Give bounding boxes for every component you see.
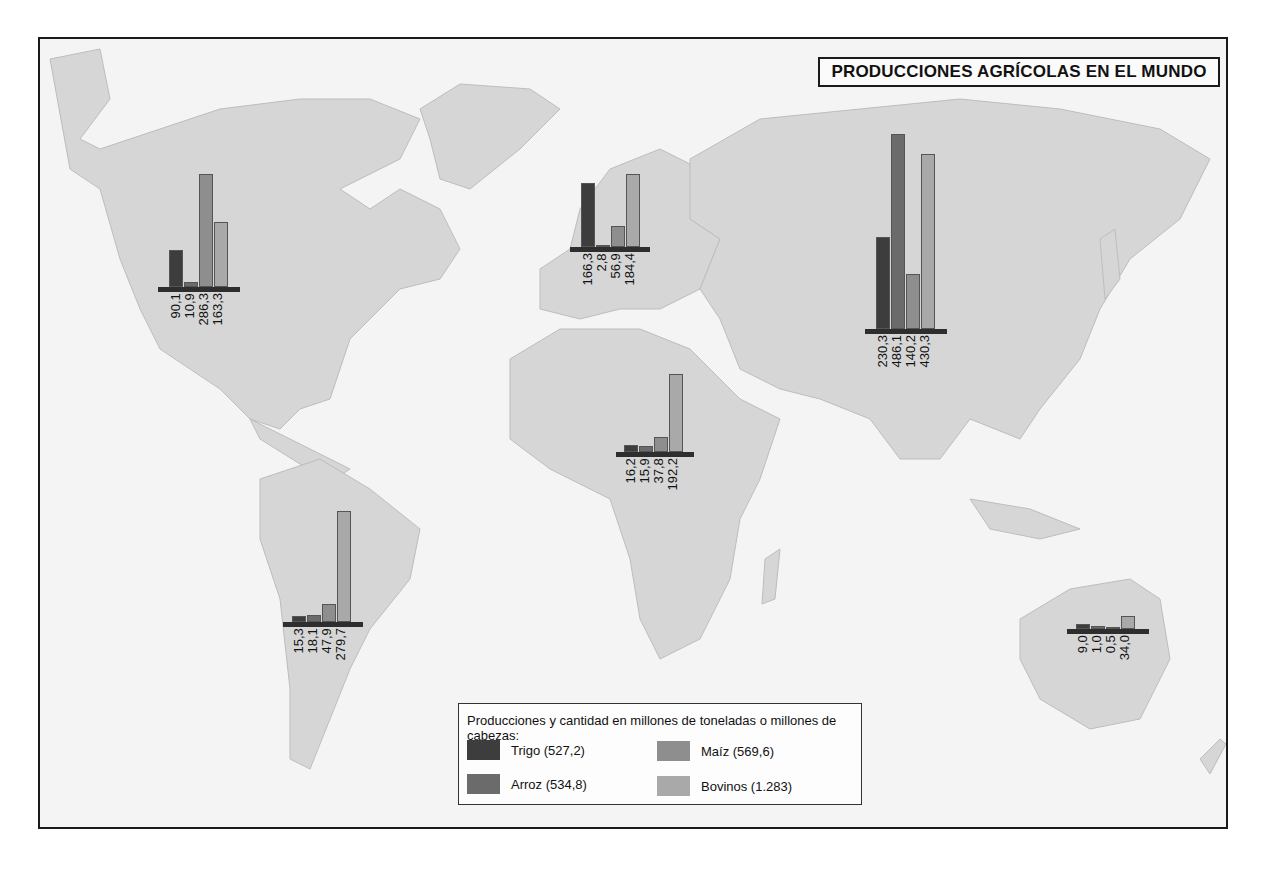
value-label-bovinos: 192,2 [666, 458, 680, 491]
bar-maiz [322, 604, 336, 622]
madagascar-landmass [762, 549, 780, 604]
north-america-landmass [50, 49, 460, 429]
value-label-trigo: 166,3 [581, 253, 595, 286]
legend-heading: Producciones y cantidad en millones de t… [467, 713, 861, 743]
value-label-maiz: 286,3 [197, 293, 211, 326]
legend-item-maiz: Maíz (569,6) [657, 741, 774, 761]
value-labels: 90,1 10,9 286,3 163,3 [169, 293, 225, 326]
chart-baseline [865, 329, 947, 334]
bar-arroz [307, 615, 321, 622]
value-label-bovinos: 430,3 [918, 335, 932, 368]
legend-label: Arroz (534,8) [511, 777, 587, 792]
value-label-trigo: 16,2 [624, 458, 638, 491]
bar-arroz [184, 282, 198, 287]
value-labels: 230,3 486,1 140,2 430,3 [876, 335, 932, 368]
swatch-arroz [467, 774, 500, 794]
chart-baseline [1067, 629, 1149, 634]
value-label-arroz: 15,9 [638, 458, 652, 491]
chart-baseline [158, 287, 240, 292]
legend: Producciones y cantidad en millones de t… [458, 703, 862, 805]
bar-trigo [581, 183, 595, 247]
value-label-trigo: 9,0 [1076, 635, 1090, 660]
asia-landmass [690, 99, 1210, 459]
value-label-maiz: 140,2 [904, 335, 918, 368]
bar-bovinos [669, 374, 683, 452]
legend-item-bovinos: Bovinos (1.283) [657, 776, 792, 796]
bar-maiz [906, 274, 920, 329]
swatch-trigo [467, 740, 500, 760]
map-title: PRODUCCIONES AGRÍCOLAS EN EL MUNDO [818, 57, 1220, 87]
new-zealand-landmass [1200, 739, 1226, 774]
legend-label: Bovinos (1.283) [701, 779, 792, 794]
bar-trigo [624, 445, 638, 452]
africa-landmass [510, 329, 780, 659]
map-frame: PRODUCCIONES AGRÍCOLAS EN EL MUNDO 90,1 … [38, 37, 1228, 829]
chart-baseline [570, 247, 650, 252]
value-label-bovinos: 34,0 [1118, 635, 1132, 660]
value-label-bovinos: 184,4 [623, 253, 637, 286]
legend-item-arroz: Arroz (534,8) [467, 774, 587, 794]
greenland-landmass [420, 84, 560, 189]
bar-trigo [876, 237, 890, 329]
bar-maiz [611, 226, 625, 247]
bar-bovinos [921, 154, 935, 329]
bar-trigo [292, 616, 306, 622]
value-label-arroz: 10,9 [183, 293, 197, 326]
bar-maiz [654, 437, 668, 452]
swatch-bovinos [657, 776, 690, 796]
value-labels: 166,3 2,8 56,9 184,4 [581, 253, 637, 286]
chart-baseline [283, 622, 363, 627]
legend-item-trigo: Trigo (527,2) [467, 740, 585, 760]
value-labels: 16,2 15,9 37,8 192,2 [624, 458, 680, 491]
legend-label: Maíz (569,6) [701, 744, 774, 759]
value-label-trigo: 230,3 [876, 335, 890, 368]
bar-bovinos [626, 174, 640, 247]
bar-bovinos [337, 511, 351, 622]
bar-maiz [1106, 627, 1120, 629]
value-label-arroz: 2,8 [595, 253, 609, 286]
bar-bovinos [214, 222, 228, 287]
value-label-bovinos: 163,3 [211, 293, 225, 326]
bar-maiz [199, 174, 213, 287]
indonesia-landmass [970, 499, 1080, 539]
value-label-trigo: 90,1 [169, 293, 183, 326]
bar-bovinos [1121, 616, 1135, 629]
value-label-arroz: 18,1 [306, 628, 320, 661]
swatch-maiz [657, 741, 690, 761]
value-label-arroz: 486,1 [890, 335, 904, 368]
bar-trigo [1076, 624, 1090, 629]
value-label-bovinos: 279,7 [334, 628, 348, 661]
bar-arroz [639, 446, 653, 452]
value-label-maiz: 56,9 [609, 253, 623, 286]
value-label-maiz: 37,8 [652, 458, 666, 491]
chart-baseline [616, 452, 694, 457]
bar-arroz [1091, 626, 1105, 629]
bar-trigo [169, 250, 183, 287]
value-labels: 9,0 1,0 0,5 34,0 [1076, 635, 1132, 660]
value-label-maiz: 47,9 [320, 628, 334, 661]
value-label-maiz: 0,5 [1104, 635, 1118, 660]
bar-arroz [891, 134, 905, 329]
legend-label: Trigo (527,2) [511, 743, 585, 758]
value-label-trigo: 15,3 [292, 628, 306, 661]
bar-arroz [596, 245, 610, 247]
value-labels: 15,3 18,1 47,9 279,7 [292, 628, 348, 661]
value-label-arroz: 1,0 [1090, 635, 1104, 660]
